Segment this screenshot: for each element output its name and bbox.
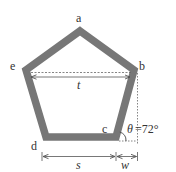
vertex-label-a: a (76, 11, 82, 25)
vertex-label-c: c (102, 122, 107, 136)
t-label: t (77, 78, 81, 92)
angle-symbol: θ (127, 122, 133, 136)
s-label: s (76, 158, 81, 172)
vertex-label-d: d (31, 139, 37, 153)
vertex-label-b: b (139, 59, 145, 73)
w-label: w (121, 158, 129, 172)
pentagon-diagram: a e b c d t s w θ =72° (0, 0, 176, 172)
vertex-label-e: e (10, 59, 15, 73)
angle-value: =72° (135, 122, 159, 136)
